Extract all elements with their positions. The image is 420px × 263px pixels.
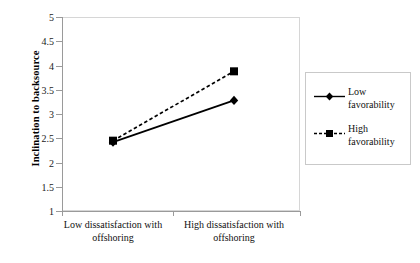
y-axis-tick	[56, 163, 62, 164]
legend-item-high-favorability: High favorability	[314, 124, 408, 154]
y-axis-tick-label: 5	[2, 12, 54, 23]
y-axis-tick	[56, 187, 62, 188]
y-axis-tick	[56, 41, 62, 42]
legend-swatch-solid-diamond-icon	[314, 92, 345, 101]
y-axis-tick-label: 1.5	[2, 181, 54, 192]
y-axis-tick	[56, 114, 62, 115]
y-axis-tick	[56, 17, 62, 18]
x-axis-tick	[173, 211, 174, 216]
y-axis-tick-label: 2	[2, 157, 54, 168]
y-axis-tick-label: 2.5	[2, 133, 54, 144]
plot-area	[62, 17, 300, 211]
y-axis-line	[62, 17, 63, 212]
y-axis-tick-label: 1	[2, 206, 54, 217]
y-axis-tick-labels: 11.522.533.544.55	[0, 0, 54, 263]
legend-swatch-dashed-square-icon	[314, 129, 345, 138]
x-axis-category-label: High dissatisfaction with offshoring	[172, 219, 296, 244]
legend-item-low-favorability: Low favorability	[314, 87, 408, 117]
y-axis-tick-label: 4	[2, 60, 54, 71]
y-axis-tick	[56, 90, 62, 91]
y-axis-tick-label: 3	[2, 109, 54, 120]
chart-figure: Inclination to backsource 11.522.533.544…	[0, 0, 420, 263]
x-axis-category-label: Low dissatisfaction with offshoring	[51, 219, 175, 244]
y-axis-tick	[56, 66, 62, 67]
x-axis-tick	[300, 211, 301, 216]
x-axis-tick	[62, 211, 63, 216]
chart-legend: Low favorability High favorability	[305, 72, 411, 165]
legend-label: High favorability	[348, 123, 410, 148]
legend-label: Low favorability	[348, 86, 410, 111]
x-axis-line	[62, 211, 301, 212]
y-axis-tick-label: 3.5	[2, 84, 54, 95]
y-axis-tick	[56, 138, 62, 139]
y-axis-tick-label: 4.5	[2, 36, 54, 47]
